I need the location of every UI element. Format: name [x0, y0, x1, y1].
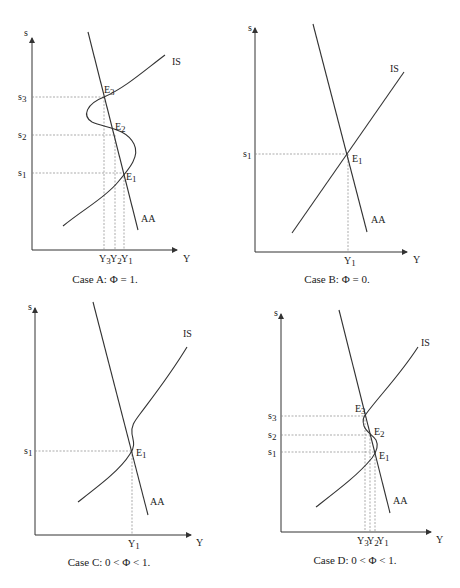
- aa-label: AA: [393, 495, 408, 506]
- e3-label: E3: [355, 403, 366, 416]
- e2-label: E2: [374, 426, 385, 439]
- panel-case-b: s Y IS AA E1 s1 Y1 Case B: Φ = 0.: [243, 22, 420, 285]
- aa-label: AA: [141, 213, 156, 224]
- is-label: IS: [183, 328, 192, 339]
- caption-case-c: Case C: 0 < Φ < 1.: [68, 556, 151, 568]
- y1-label: Y1: [128, 538, 140, 551]
- aa-curve: [313, 24, 367, 232]
- panel-case-d: s Y IS AA E3 E2 E1 s3 s2 s1 Y3 Y2 Y1 Cas…: [268, 307, 443, 566]
- e3-label: E3: [104, 84, 115, 97]
- s3-label: s3: [268, 410, 277, 423]
- y1-label: Y1: [377, 535, 389, 548]
- y-axis-label: Y: [436, 534, 443, 545]
- e1-label: E1: [126, 171, 137, 184]
- s-axis-label: s: [28, 301, 32, 312]
- y2-label: Y2: [110, 253, 122, 266]
- s-axis-label: s: [274, 307, 278, 318]
- s1-label: s1: [24, 445, 32, 458]
- caption-case-b: Case B: Φ = 0.: [304, 273, 370, 285]
- y-axis-label: Y: [196, 537, 203, 548]
- panel-case-a: s Y IS AA E3 E2 E1 s3 s2 s1 Y3 Y2 Y1 Cas…: [18, 27, 190, 285]
- is-curve: [78, 347, 187, 502]
- e1-label: E1: [136, 447, 147, 460]
- is-label: IS: [390, 63, 399, 74]
- y-axis-label: Y: [183, 253, 190, 264]
- panel-case-c: s Y IS AA E1 s1 Y1 Case C: 0 < Φ < 1.: [24, 301, 203, 568]
- is-curve: [316, 347, 418, 507]
- aa-label: AA: [150, 496, 165, 507]
- is-label: IS: [172, 56, 181, 67]
- is-label: IS: [421, 337, 430, 348]
- s1-label: s1: [18, 167, 26, 180]
- aa-label: AA: [371, 214, 386, 225]
- e2-label: E2: [115, 121, 126, 134]
- y1-label: Y1: [344, 255, 356, 268]
- y1-label: Y1: [121, 253, 133, 266]
- s2-label: s2: [18, 129, 26, 142]
- is-curve: [63, 55, 165, 226]
- aa-curve: [88, 32, 138, 230]
- s1-label: s1: [243, 148, 251, 161]
- caption-case-d: Case D: 0 < Φ < 1.: [313, 554, 396, 566]
- e1-label: E1: [379, 450, 390, 463]
- is-aa-diagram-figure: s Y IS AA E3 E2 E1 s3 s2 s1 Y3 Y2 Y1 Cas…: [0, 0, 460, 588]
- e1-label: E1: [352, 153, 363, 166]
- y-axis-label: Y: [413, 254, 420, 265]
- s-axis-label: s: [248, 22, 252, 33]
- s1-label: s1: [268, 446, 276, 459]
- s2-label: s2: [268, 429, 276, 442]
- caption-case-a: Case A: Φ = 1.: [72, 273, 138, 285]
- s3-label: s3: [18, 91, 27, 104]
- s-axis-label: s: [24, 27, 28, 38]
- is-curve: [292, 72, 404, 233]
